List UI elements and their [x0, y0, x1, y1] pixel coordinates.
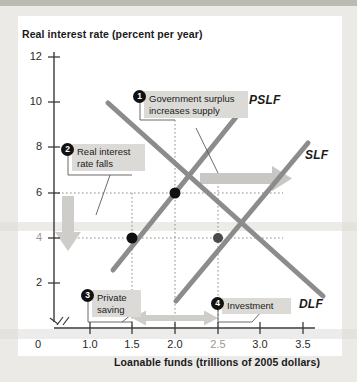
- callout-2-badge: 2: [61, 143, 74, 156]
- y-tick-10: 10: [22, 95, 42, 107]
- curve-label-slf: SLF: [305, 148, 328, 162]
- rate-fall-arrow: [55, 196, 81, 251]
- x-tick-2-0: 2.0: [161, 338, 189, 350]
- x-tick-0: 0: [26, 338, 50, 350]
- y-tick-6: 6: [22, 186, 42, 198]
- callout-4-text: Investment: [222, 298, 291, 314]
- figure-panel: Real interest rate (percent per year) Lo…: [0, 0, 357, 382]
- axis-break-marks: [50, 317, 69, 325]
- demand-curve-dlf: [108, 103, 323, 296]
- x-axis-title: Loanable funds (trillions of 2005 dollar…: [114, 356, 320, 368]
- curve-label-dlf: DLF: [299, 297, 323, 311]
- chart-canvas: [0, 0, 357, 382]
- equilibrium-point-initial: [170, 188, 181, 199]
- private-saving-point: [127, 233, 138, 244]
- y-tick-4: 4: [22, 231, 42, 243]
- y-tick-2: 2: [22, 276, 42, 288]
- x-tick-2-5: 2.5: [204, 338, 232, 350]
- y-axis-title: Real interest rate (percent per year): [22, 28, 203, 40]
- x-tick-3-5: 3.5: [289, 338, 317, 350]
- x-tick-3-0: 3.0: [246, 338, 274, 350]
- equilibrium-point-new: [213, 233, 223, 243]
- callout-2-text: Real interest rate falls: [72, 144, 145, 171]
- curve-label-pslf: PSLF: [249, 93, 280, 107]
- callout-leaders: [68, 99, 272, 322]
- callout-1-text: Government surplus increases supply: [144, 91, 248, 118]
- callout-3-badge: 3: [81, 289, 94, 302]
- callout-4-badge: 4: [211, 297, 224, 310]
- y-tick-12: 12: [22, 50, 42, 62]
- y-tick-8: 8: [22, 140, 42, 152]
- callout-1-badge: 1: [133, 90, 146, 103]
- x-tick-1-0: 1.0: [76, 338, 104, 350]
- x-tick-1-5: 1.5: [118, 338, 146, 350]
- callout-3-text: Private saving: [92, 290, 141, 317]
